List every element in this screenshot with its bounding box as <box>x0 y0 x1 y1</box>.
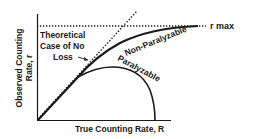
arrowhead-icon <box>84 57 88 61</box>
no-loss-label-1: Theoretical <box>40 30 85 40</box>
rmax-label: r max <box>210 21 234 31</box>
y-axis-title-2: Rate, r <box>24 54 34 81</box>
no-loss-label-3: Loss <box>53 52 73 62</box>
no-loss-label-2: Case of No <box>40 41 84 51</box>
non-paralyzable-label: Non-Paralyzable <box>123 24 188 58</box>
y-axis-title-1: Observed Counting <box>14 29 24 108</box>
counting-rate-chart: r max Theoretical Case of No Loss Non-Pa… <box>0 0 253 139</box>
x-axis-title: True Counting Rate, R <box>75 124 164 134</box>
